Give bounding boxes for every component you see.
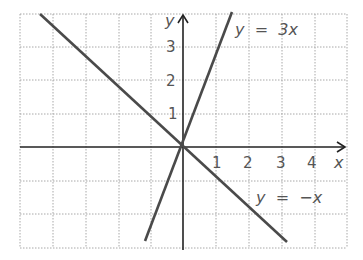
x-tick-4: 4: [307, 154, 317, 172]
line-y-equals-3x: [145, 12, 232, 241]
line-y-equals-neg-x: [40, 14, 287, 242]
axes: [20, 15, 345, 250]
y-axis-label: y: [164, 11, 175, 30]
coordinate-plane: 1 2 3 4 3 2 1 x y y = 3x y = −x: [0, 0, 363, 260]
x-axis-label: x: [333, 153, 344, 172]
equation-3x: y = 3x: [234, 20, 298, 39]
series-lines: [40, 12, 287, 242]
y-tick-2: 2: [166, 72, 176, 90]
x-tick-2: 2: [243, 154, 253, 172]
y-tick-1: 1: [168, 105, 178, 123]
equation-neg-x: y = −x: [255, 188, 323, 207]
y-tick-3: 3: [166, 38, 176, 56]
x-tick-3: 3: [276, 154, 286, 172]
x-tick-1: 1: [212, 154, 222, 172]
